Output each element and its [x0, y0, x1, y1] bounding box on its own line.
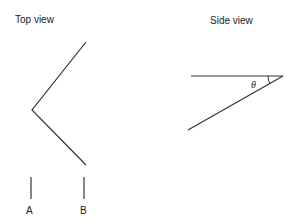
marker-a-label: A	[26, 205, 33, 216]
side-view-incline-line	[188, 76, 283, 130]
angle-arc	[268, 76, 270, 84]
marker-b-label: B	[80, 205, 87, 216]
angle-theta-label: θ	[251, 79, 256, 90]
top-view-diagram	[0, 0, 295, 224]
side-view-title: Side view	[210, 15, 253, 26]
top-view-v-shape	[32, 42, 86, 165]
